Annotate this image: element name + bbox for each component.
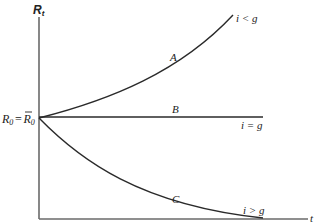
- condition-a-label: i < g: [236, 12, 258, 24]
- svg-text:R0=R0: R0=R0: [1, 112, 35, 127]
- condition-b-label: i = g: [241, 119, 263, 131]
- curve-a-label: A: [169, 51, 177, 63]
- curve-c-label: C: [172, 193, 180, 205]
- y-axis-label: Rt: [33, 3, 45, 18]
- x-axis-label: t: [310, 212, 314, 222]
- curve-c: [39, 118, 263, 218]
- curve-a: [39, 15, 233, 118]
- diagram-canvas: Rt t R0=R0 A B C i < g i = g i > g: [0, 0, 321, 222]
- condition-c-label: i > g: [243, 204, 265, 216]
- origin-label: R0=R0: [1, 112, 35, 127]
- curve-b-label: B: [172, 103, 179, 115]
